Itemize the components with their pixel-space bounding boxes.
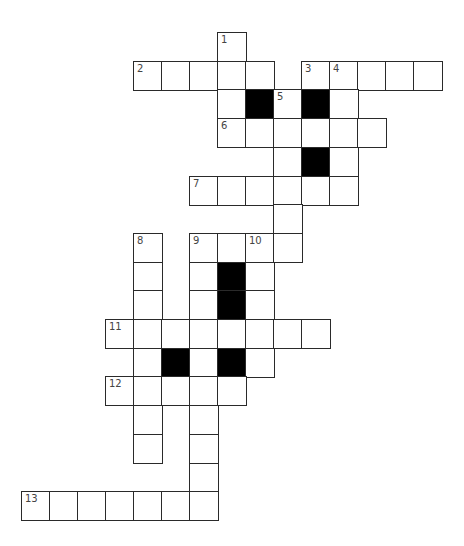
crossword-cell[interactable] xyxy=(217,319,247,349)
crossword-cell[interactable] xyxy=(245,319,275,349)
crossword-cell[interactable] xyxy=(329,89,359,119)
crossword-cell[interactable] xyxy=(329,147,359,177)
clue-number: 10 xyxy=(249,236,262,246)
crossword-cell[interactable]: 6 xyxy=(217,118,247,148)
crossword-cell[interactable]: 12 xyxy=(105,376,135,406)
crossword-cell[interactable] xyxy=(217,61,247,91)
crossword-cell[interactable] xyxy=(357,118,387,148)
crossword-cell[interactable] xyxy=(329,118,359,148)
crossword-cell[interactable] xyxy=(301,118,331,148)
crossword-cell[interactable] xyxy=(133,290,163,320)
crossword-cell[interactable] xyxy=(245,262,275,292)
crossword-cell[interactable] xyxy=(273,147,303,177)
crossword-cell[interactable] xyxy=(189,61,219,91)
crossword-cell[interactable]: 9 xyxy=(189,233,219,263)
crossword-cell[interactable]: 4 xyxy=(329,61,359,91)
crossword-cell[interactable] xyxy=(189,463,219,493)
crossword-cell[interactable]: 3 xyxy=(301,61,331,91)
black-square xyxy=(301,147,331,177)
crossword-cell[interactable] xyxy=(273,176,303,206)
crossword-cell[interactable] xyxy=(245,118,275,148)
crossword-cell[interactable]: 10 xyxy=(245,233,275,263)
black-square xyxy=(217,290,247,320)
crossword-cell[interactable]: 2 xyxy=(133,61,163,91)
crossword-cell[interactable] xyxy=(133,348,163,378)
crossword-cell[interactable] xyxy=(301,319,331,349)
crossword-cell[interactable] xyxy=(217,376,247,406)
crossword-cell[interactable] xyxy=(245,290,275,320)
black-square xyxy=(301,89,331,119)
crossword-cell[interactable] xyxy=(133,376,163,406)
crossword-cell[interactable] xyxy=(245,176,275,206)
crossword-cell[interactable] xyxy=(189,319,219,349)
crossword-cell[interactable] xyxy=(77,491,107,521)
crossword-cell[interactable] xyxy=(161,376,191,406)
crossword-cell[interactable] xyxy=(217,176,247,206)
clue-number: 9 xyxy=(193,236,199,246)
clue-number: 7 xyxy=(193,179,199,189)
black-square xyxy=(161,348,191,378)
clue-number: 12 xyxy=(109,379,122,389)
crossword-cell[interactable] xyxy=(189,491,219,521)
crossword-cell[interactable] xyxy=(245,61,275,91)
black-square xyxy=(217,262,247,292)
crossword-cell[interactable]: 5 xyxy=(273,89,303,119)
crossword-cell[interactable] xyxy=(273,204,303,234)
crossword-cell[interactable]: 11 xyxy=(105,319,135,349)
crossword-cell[interactable] xyxy=(189,290,219,320)
crossword-cell[interactable] xyxy=(357,61,387,91)
crossword-grid: 12345678910111213 xyxy=(0,0,464,546)
crossword-cell[interactable] xyxy=(329,176,359,206)
crossword-cell[interactable] xyxy=(133,434,163,464)
black-square xyxy=(245,89,275,119)
crossword-cell[interactable] xyxy=(133,491,163,521)
clue-number: 5 xyxy=(277,92,283,102)
crossword-cell[interactable] xyxy=(273,118,303,148)
clue-number: 13 xyxy=(25,494,38,504)
crossword-cell[interactable] xyxy=(385,61,415,91)
clue-number: 11 xyxy=(109,322,122,332)
crossword-cell[interactable] xyxy=(245,348,275,378)
crossword-cell[interactable] xyxy=(49,491,79,521)
crossword-cell[interactable] xyxy=(189,376,219,406)
clue-number: 2 xyxy=(137,64,143,74)
crossword-cell[interactable] xyxy=(413,61,443,91)
crossword-cell[interactable] xyxy=(161,319,191,349)
crossword-cell[interactable] xyxy=(133,262,163,292)
crossword-cell[interactable]: 7 xyxy=(189,176,219,206)
crossword-cell[interactable] xyxy=(133,319,163,349)
black-square xyxy=(217,348,247,378)
clue-number: 6 xyxy=(221,121,227,131)
crossword-cell[interactable] xyxy=(273,233,303,263)
crossword-cell[interactable] xyxy=(189,262,219,292)
clue-number: 3 xyxy=(305,64,311,74)
clue-number: 4 xyxy=(333,64,339,74)
crossword-cell[interactable] xyxy=(217,89,247,119)
crossword-cell[interactable] xyxy=(105,491,135,521)
crossword-cell[interactable] xyxy=(133,405,163,435)
crossword-cell[interactable] xyxy=(189,434,219,464)
crossword-cell[interactable] xyxy=(161,61,191,91)
crossword-cell[interactable] xyxy=(189,405,219,435)
crossword-cell[interactable] xyxy=(273,319,303,349)
crossword-cell[interactable] xyxy=(301,176,331,206)
clue-number: 1 xyxy=(221,35,227,45)
crossword-cell[interactable]: 1 xyxy=(217,32,247,62)
crossword-cell[interactable] xyxy=(161,491,191,521)
crossword-cell[interactable] xyxy=(189,348,219,378)
crossword-cell[interactable] xyxy=(217,233,247,263)
clue-number: 8 xyxy=(137,236,143,246)
crossword-cell[interactable]: 13 xyxy=(21,491,51,521)
crossword-cell[interactable]: 8 xyxy=(133,233,163,263)
